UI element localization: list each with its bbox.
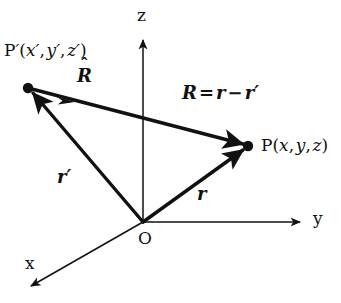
position-vector-diagram: P′(x′, y′, z′) P(x, y, z) Rˆ R=r−r′ r′ r… — [0, 0, 341, 303]
vector-r-label: r — [197, 185, 206, 203]
y-axis-label: y — [313, 210, 323, 227]
unit-vector-R-hat-label: Rˆ — [77, 67, 92, 85]
vector-lines — [28, 88, 243, 222]
source-point-dot — [23, 83, 33, 93]
coordinate-axes — [31, 40, 300, 286]
x-axis-label: x — [25, 255, 35, 272]
separation-equation-label: R=r−r′ — [182, 84, 259, 102]
field-point-label: P(x, y, z) — [261, 137, 328, 154]
vector-r-prime-label: r′ — [57, 168, 71, 186]
vector-r-line — [143, 150, 243, 222]
z-axis-label: z — [137, 7, 146, 24]
source-point-label: P′(x′, y′, z′) — [4, 42, 87, 59]
origin-label: O — [138, 230, 152, 247]
x-axis-line — [31, 222, 143, 286]
field-point-dot — [243, 141, 253, 151]
